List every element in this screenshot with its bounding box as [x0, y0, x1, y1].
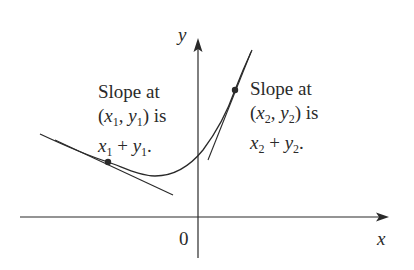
annotation-1-line-2: (x1, y1) is — [98, 104, 166, 134]
tangent-line-2 — [208, 52, 251, 160]
diagram-canvas — [0, 0, 414, 270]
annotation-1-line-1: Slope at — [98, 80, 166, 104]
origin-label: 0 — [179, 228, 189, 250]
annotation-2-line-1: Slope at — [250, 77, 318, 101]
point-2-marker — [232, 87, 238, 93]
annotation-1-line-3: x1 + y1. — [98, 134, 166, 164]
annotation-2-line-3: x2 + y2. — [250, 131, 318, 161]
annotation-2-line-2: (x2, y2) is — [250, 101, 318, 131]
x-axis-label: x — [377, 228, 385, 250]
annotation-point-1: Slope at (x1, y1) is x1 + y1. — [98, 80, 166, 164]
y-axis-label: y — [178, 24, 186, 46]
annotation-point-2: Slope at (x2, y2) is x2 + y2. — [250, 77, 318, 161]
